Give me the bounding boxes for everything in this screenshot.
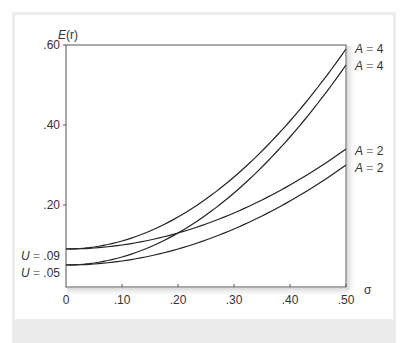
- x-tick-label: .50: [338, 293, 355, 307]
- label-u-09: U = .09: [21, 249, 60, 263]
- label-a-2-lower: A = 2: [354, 161, 384, 175]
- y-axis-title: E(r): [58, 28, 78, 42]
- y-tick-label: .40: [43, 118, 60, 132]
- y-axis-title-arg: (r): [66, 28, 78, 42]
- label-a-2-upper: A = 2: [354, 144, 384, 158]
- y-tick-label: .20: [43, 198, 60, 212]
- x-tick-label: .30: [226, 293, 243, 307]
- x-tick-label: .40: [282, 293, 299, 307]
- label-a-4-lower: A = 4: [354, 59, 384, 73]
- plot-shadow-bottom: [67, 288, 349, 298]
- x-tick-label: .20: [170, 293, 187, 307]
- label-a-4-upper: A = 4: [354, 42, 384, 56]
- x-tick-label: .10: [114, 293, 131, 307]
- indifference-curves-chart: .60 .40 .20 E(r) 0 .10 .20 .30 .40 .50 σ…: [0, 0, 406, 343]
- x-tick-label: 0: [63, 293, 70, 307]
- label-u-05: U = .05: [21, 266, 60, 280]
- plot-area: [66, 45, 346, 287]
- x-axis-title: σ: [364, 283, 372, 297]
